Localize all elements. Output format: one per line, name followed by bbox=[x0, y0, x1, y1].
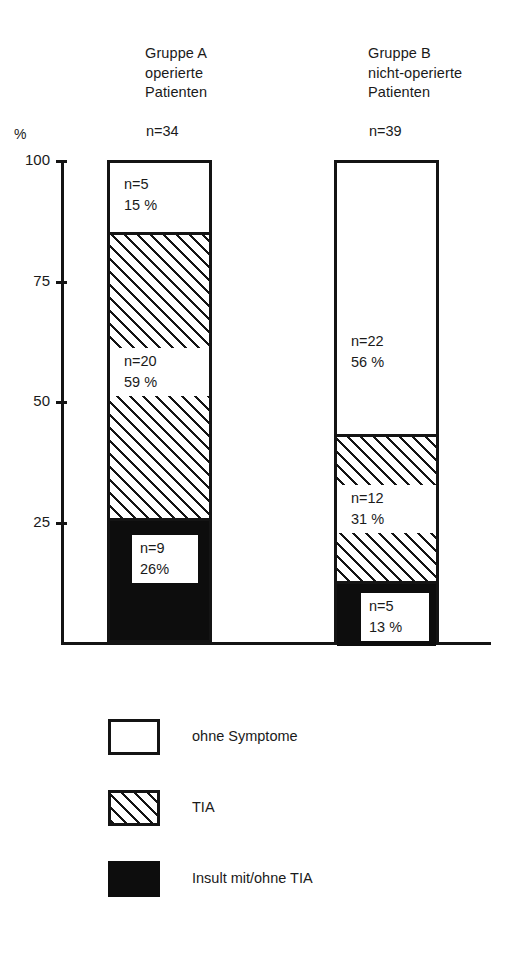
bar-group-b: n=22 56 % n=12 31 % n=5 13 % bbox=[334, 160, 439, 643]
y-tick-label-100: 100 bbox=[6, 151, 50, 168]
segment-b-ohne-symptome bbox=[337, 163, 436, 434]
segment-label-a-ohne-symptome: n=5 15 % bbox=[110, 171, 209, 219]
legend-label-tia: TIA bbox=[192, 799, 215, 815]
segment-divider-a-2 bbox=[110, 518, 209, 521]
legend-swatch-black-icon bbox=[108, 861, 160, 897]
segment-label-b-insult: n=5 13 % bbox=[361, 593, 429, 641]
y-tick-label-25: 25 bbox=[6, 513, 50, 530]
y-axis-unit-label: % bbox=[14, 126, 26, 142]
segment-label-b-ohne-symptome: n=22 56 % bbox=[337, 328, 436, 376]
y-tick-75 bbox=[56, 281, 67, 284]
legend-label-insult: Insult mit/ohne TIA bbox=[192, 870, 313, 886]
legend-swatch-hatch-icon bbox=[108, 790, 160, 826]
stacked-bar-chart: Gruppe A operierte Patienten n=34 Gruppe… bbox=[0, 0, 513, 980]
segment-label-a-tia: n=20 59 % bbox=[110, 348, 209, 396]
segment-divider-b-2 bbox=[337, 581, 436, 584]
legend-label-ohne-symptome: ohne Symptome bbox=[192, 728, 298, 744]
legend-swatch-white-icon bbox=[108, 719, 160, 755]
y-tick-label-50: 50 bbox=[6, 392, 50, 409]
bar-group-a: n=5 15 % n=20 59 % n=9 26% bbox=[107, 160, 212, 643]
segment-divider-a-1 bbox=[110, 232, 209, 235]
group-a-header: Gruppe A operierte Patienten bbox=[145, 44, 207, 103]
y-tick-label-75: 75 bbox=[6, 272, 50, 289]
group-b-header: Gruppe B nicht-operierte Patienten bbox=[368, 44, 462, 103]
segment-label-a-insult: n=9 26% bbox=[132, 535, 198, 583]
segment-label-b-tia: n=12 31 % bbox=[337, 485, 436, 533]
group-a-total: n=34 bbox=[146, 122, 179, 140]
y-tick-100 bbox=[56, 160, 67, 163]
segment-divider-b-1 bbox=[337, 434, 436, 437]
group-b-total: n=39 bbox=[369, 122, 402, 140]
y-tick-50 bbox=[56, 401, 67, 404]
y-tick-25 bbox=[56, 522, 67, 525]
